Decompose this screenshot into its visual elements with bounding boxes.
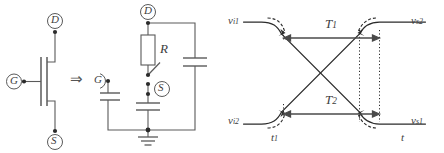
resistor-label: R <box>160 41 168 57</box>
T2-arrow-right <box>373 111 380 117</box>
eq-gate-label: G <box>94 73 102 85</box>
vs2-label: vs2 <box>411 14 423 26</box>
vi2-label: vi2 <box>228 114 239 126</box>
t1-sub: 1 <box>274 134 278 143</box>
gate-node-dot <box>22 79 26 83</box>
corner-arc-top-left <box>268 18 285 31</box>
eq-source-node-dot <box>146 92 150 96</box>
T1-sub: 1 <box>332 20 337 30</box>
gate-cap-to-rail-wire <box>108 100 148 130</box>
source-node-dot <box>53 129 57 133</box>
curve-vi2-to-vs2 <box>244 22 426 124</box>
vs1-label: vs1 <box>411 114 423 126</box>
T2-label: T2 <box>325 92 337 108</box>
equivalent-circuit-panel <box>100 0 220 153</box>
vs2-sub: s2 <box>416 17 423 26</box>
curve-vi1-to-vs1 <box>244 22 426 124</box>
T2-sub: 2 <box>332 96 337 106</box>
figure-root: D S G ⇒ <box>0 0 444 153</box>
symbol-source-label: S <box>51 134 57 146</box>
resistor-body <box>141 35 155 65</box>
vi2-sub: i2 <box>233 117 239 126</box>
t-axis-label: t <box>401 131 404 143</box>
switch-lower-contact-dot <box>146 82 150 86</box>
eq-gate-node-dot <box>106 79 110 83</box>
eq-drain-node-dot <box>146 21 150 25</box>
T1-arrow-right <box>373 35 380 41</box>
vs1-sub: s1 <box>416 117 423 126</box>
drain-node-dot <box>53 30 57 34</box>
T1-arrow-left <box>284 35 291 41</box>
ground-junction-dot <box>146 128 151 133</box>
switch-upper-contact-dot <box>146 73 150 77</box>
vi1-sub: i1 <box>233 17 239 26</box>
symbol-gate-label: G <box>10 74 18 86</box>
symbol-drain-label: D <box>51 13 59 25</box>
eq-drain-label: D <box>144 4 152 16</box>
drain-lead <box>47 32 55 62</box>
corner-arc-bottom-left <box>268 115 285 128</box>
eq-source-label: S <box>158 81 164 93</box>
loadcap-to-rail-wire <box>148 66 195 130</box>
T1-label: T1 <box>325 16 337 32</box>
t1-axis-label: t1 <box>271 131 278 143</box>
implies-arrow-icon: ⇒ <box>70 70 83 88</box>
source-lead <box>47 101 55 131</box>
vi1-label: vi1 <box>228 14 239 26</box>
